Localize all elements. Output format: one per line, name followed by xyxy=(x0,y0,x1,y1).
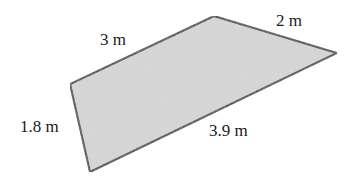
label-side-2m: 2 m xyxy=(276,12,302,29)
quadrilateral-figure xyxy=(0,0,358,177)
label-side-1-8m: 1.8 m xyxy=(20,118,59,135)
label-side-3m: 3 m xyxy=(100,31,126,48)
label-side-3-9m: 3.9 m xyxy=(209,122,248,139)
